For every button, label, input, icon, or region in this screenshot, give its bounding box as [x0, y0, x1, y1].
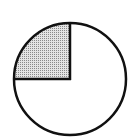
fraction-circle-diagram [0, 0, 131, 138]
